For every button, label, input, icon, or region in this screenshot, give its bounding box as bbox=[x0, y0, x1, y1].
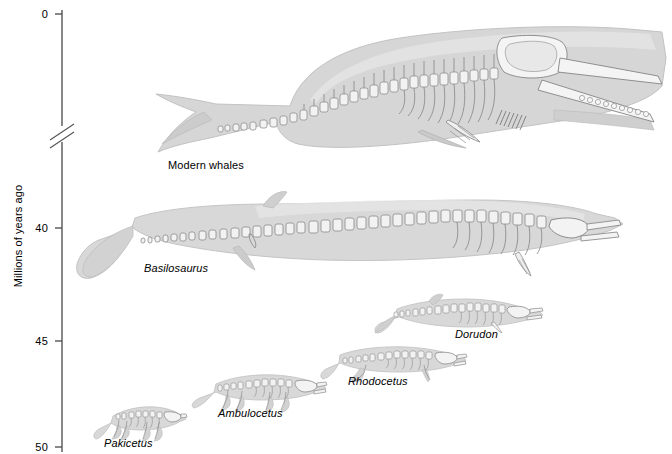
organism-rhodocetus: Rhodocetus bbox=[318, 341, 468, 383]
species-label-pakicetus: Pakicetus bbox=[104, 437, 153, 449]
species-label-ambulocetus: Ambulocetus bbox=[218, 407, 283, 419]
axis-title: Millions of years ago bbox=[12, 166, 24, 306]
species-label-modern-whales: Modern whales bbox=[168, 159, 244, 171]
species-label-basilosaurus: Basilosaurus bbox=[144, 262, 208, 274]
organism-dorudon: Dorudon bbox=[373, 293, 545, 335]
tick-label-45: 45 bbox=[18, 335, 48, 347]
organism-basilosaurus: Basilosaurus bbox=[75, 182, 635, 287]
species-label-rhodocetus: Rhodocetus bbox=[348, 375, 408, 387]
organism-ambulocetus: Ambulocetus bbox=[188, 370, 328, 414]
organism-modern-whales: Modern whales bbox=[150, 14, 672, 164]
tick-label-50: 50 bbox=[18, 441, 48, 453]
species-label-dorudon: Dorudon bbox=[455, 328, 498, 340]
modern-whale-illustration bbox=[150, 14, 672, 164]
tick-label-0: 0 bbox=[18, 8, 48, 20]
whale-evolution-figure: 0 40 45 50 Millions of years ago bbox=[0, 0, 672, 454]
organism-pakicetus: Pakicetus bbox=[91, 403, 187, 443]
